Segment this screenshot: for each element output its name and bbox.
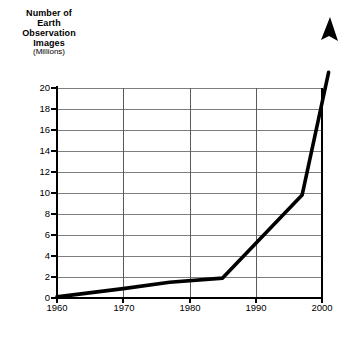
plot-area <box>0 0 352 348</box>
x-axis-ticks <box>57 298 322 303</box>
data-series-arrowhead <box>321 17 338 41</box>
chart-figure: Number of Earth Observation Images (Mill… <box>0 0 352 348</box>
data-series-line <box>57 72 329 297</box>
y-axis-ticks <box>51 88 57 298</box>
